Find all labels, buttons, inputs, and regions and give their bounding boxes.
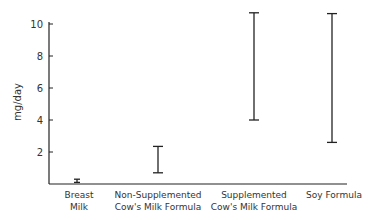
range-bar [327, 14, 337, 143]
y-tick-label: 2 [37, 147, 43, 158]
y-axis-title: mg/day [12, 83, 23, 121]
y-tick-label: 6 [37, 83, 43, 94]
category-label: Non-SupplementedCow's Milk Formula [115, 190, 202, 212]
y-tick-label: 8 [37, 51, 43, 62]
range-bar [74, 179, 80, 182]
range-bar [153, 146, 163, 172]
range-bar [249, 13, 259, 120]
range-chart: 246810 BreastMilkNon-SupplementedCow's M… [0, 0, 372, 220]
range-bars [74, 13, 337, 183]
y-tick-label: 4 [37, 115, 43, 126]
category-label: BreastMilk [65, 190, 94, 212]
axes [49, 22, 347, 184]
category-label: Soy Formula [306, 190, 362, 200]
category-label: SupplementedCow's Milk Formula [211, 190, 297, 212]
y-tick-label: 10 [30, 19, 43, 30]
category-labels: BreastMilkNon-SupplementedCow's Milk For… [65, 190, 362, 212]
